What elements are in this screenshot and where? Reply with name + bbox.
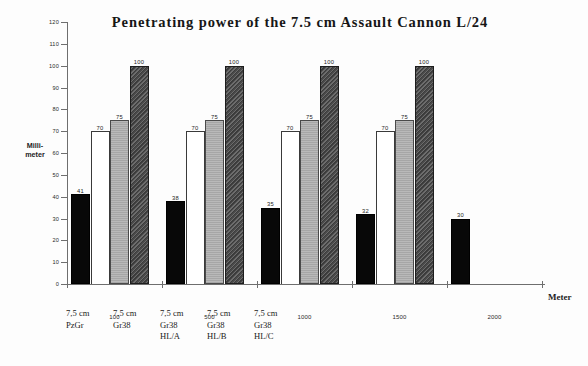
x-tick (67, 281, 68, 288)
bar-value-label: 35 (267, 201, 274, 207)
y-axis-label: Milli- meter (12, 142, 58, 159)
x-axis-label: Meter (548, 292, 571, 302)
y-tick-label: 40 (52, 194, 59, 200)
x-tick (542, 281, 543, 288)
legend: 7,5 cmPzGr 7,5 cmGr38 7,5 cmGr38HL/A7,5 … (66, 308, 306, 358)
legend-item-line: Gr38 (160, 320, 212, 332)
y-tick (61, 240, 67, 241)
bar-value-label: 30 (457, 212, 464, 218)
bar: 70 (281, 131, 300, 284)
bar: 70 (376, 131, 395, 284)
y-tick-label: 120 (49, 19, 59, 25)
y-tick (61, 262, 67, 263)
bar: 70 (186, 131, 205, 284)
bar: 100 (225, 66, 244, 284)
legend-item-line: 7,5 cm (254, 308, 306, 320)
x-tick (447, 281, 448, 288)
y-tick (61, 44, 67, 45)
bar: 41 (71, 194, 90, 284)
x-tick-label: 2000 (487, 314, 501, 320)
bar-value-label: 70 (192, 125, 199, 131)
y-tick (61, 175, 67, 176)
bar: 38 (166, 201, 185, 284)
x-axis-line (67, 284, 545, 285)
bar: 35 (261, 208, 280, 284)
bar: 75 (110, 120, 129, 284)
bar-value-label: 75 (401, 114, 408, 120)
bar-value-label: 41 (77, 188, 84, 194)
legend-item-line: PzGr (66, 320, 118, 332)
bar: 30 (451, 219, 470, 285)
y-tick (61, 153, 67, 154)
plot-area: 0102030405060708090100110120 10050010001… (67, 22, 545, 285)
x-tick (352, 281, 353, 288)
bar-value-label: 100 (324, 59, 334, 65)
y-tick (61, 219, 67, 220)
bar-value-label: 75 (306, 114, 313, 120)
bar-value-label: 100 (134, 59, 144, 65)
bar-value-label: 32 (362, 208, 369, 214)
x-tick-label: 1500 (392, 314, 406, 320)
bar: 100 (130, 66, 149, 284)
bar-value-label: 75 (211, 114, 218, 120)
bar-value-label: 38 (172, 195, 179, 201)
legend-item-line: 7,5 cm (160, 308, 212, 320)
y-tick-label: 50 (52, 172, 59, 178)
y-tick (61, 22, 67, 23)
bar-value-label: 100 (419, 59, 429, 65)
chart-page: Penetrating power of the 7.5 cm Assault … (0, 0, 588, 366)
y-tick (61, 197, 67, 198)
legend-item-line (113, 331, 165, 343)
legend-item: 7,5 cmGr38HL/C (254, 308, 306, 343)
y-axis-line (67, 22, 68, 285)
y-axis-label-line-2: meter (25, 150, 45, 159)
legend-item-line: Gr38 (254, 320, 306, 332)
legend-item: 7,5 cmGr38HL/B (207, 308, 259, 343)
bar-value-label: 70 (287, 125, 294, 131)
y-tick-label: 10 (52, 259, 59, 265)
y-tick-label: 80 (52, 106, 59, 112)
y-tick-label: 100 (49, 63, 59, 69)
x-tick (162, 281, 163, 288)
bar-value-label: 70 (97, 125, 104, 131)
bar: 75 (205, 120, 224, 284)
y-tick (61, 88, 67, 89)
y-tick-label: 70 (52, 128, 59, 134)
y-tick-label: 20 (52, 237, 59, 243)
bar: 100 (415, 66, 434, 284)
legend-item-line: Gr38 (207, 320, 259, 332)
legend-item-line: 7,5 cm (207, 308, 259, 320)
y-tick-label: 60 (52, 150, 59, 156)
bar-value-label: 75 (116, 114, 123, 120)
legend-item-line: 7,5 cm (66, 308, 118, 320)
bar: 70 (91, 131, 110, 284)
legend-item: 7,5 cmGr38HL/A (160, 308, 212, 343)
bar: 75 (395, 120, 414, 284)
y-tick (61, 109, 67, 110)
bar: 100 (320, 66, 339, 284)
bar-value-label: 100 (229, 59, 239, 65)
legend-item-line: 7,5 cm (113, 308, 165, 320)
bar-value-label: 70 (382, 125, 389, 131)
legend-item: 7,5 cmPzGr (66, 308, 118, 343)
bar: 75 (300, 120, 319, 284)
legend-item-line: HL/B (207, 331, 259, 343)
y-tick (61, 131, 67, 132)
x-tick (257, 281, 258, 288)
legend-item: 7,5 cmGr38 (113, 308, 165, 343)
legend-item-line (66, 331, 118, 343)
y-tick-label: 0 (56, 281, 59, 287)
y-tick-label: 30 (52, 216, 59, 222)
y-tick-label: 110 (49, 41, 59, 47)
bar: 32 (356, 214, 375, 284)
legend-item-line: HL/A (160, 331, 212, 343)
legend-item-line: HL/C (254, 331, 306, 343)
y-tick (61, 66, 67, 67)
legend-item-line: Gr38 (113, 320, 165, 332)
y-tick-label: 90 (52, 85, 59, 91)
